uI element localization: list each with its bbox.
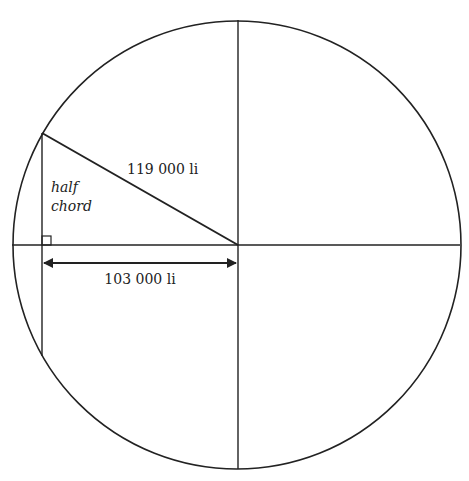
half-chord-label-line2: chord (51, 198, 92, 214)
circle-chord-diagram: 119 000 li half chord 103 000 li (0, 0, 469, 481)
half-chord-label-line1: half (51, 179, 81, 195)
hypotenuse-label: 119 000 li (127, 161, 199, 177)
right-angle-marker (42, 236, 51, 245)
base-distance-label: 103 000 li (104, 271, 176, 287)
